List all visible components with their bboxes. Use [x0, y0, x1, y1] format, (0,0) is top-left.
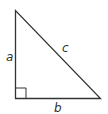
- side-label-b: b: [54, 101, 62, 114]
- side-label-a: a: [6, 50, 13, 64]
- right-triangle-diagram: a b c: [0, 0, 108, 114]
- side-label-c: c: [62, 41, 69, 55]
- triangle-outline: [16, 11, 101, 99]
- right-angle-marker: [16, 88, 27, 99]
